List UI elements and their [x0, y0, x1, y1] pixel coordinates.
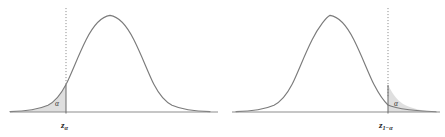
figure-background	[0, 0, 445, 137]
z-subscript-left: α	[65, 124, 69, 131]
normal-distribution-critical-regions-figure: α zα α z1−α	[0, 0, 445, 137]
z-subscript-right: 1−α	[383, 124, 394, 131]
